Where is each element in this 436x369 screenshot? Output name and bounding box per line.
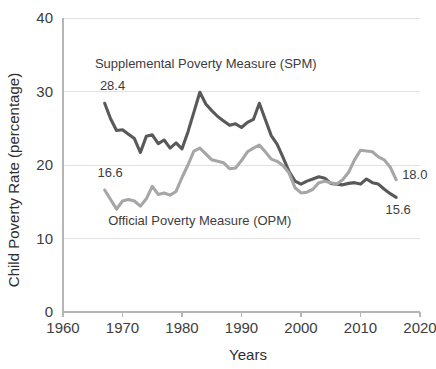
chart-container: 010203040 1960197019801990200020102020 S… — [0, 0, 436, 369]
data-series — [105, 92, 397, 209]
y-axis-title: Child Poverty Rate (percentage) — [5, 73, 22, 287]
series-line-spm — [105, 92, 397, 197]
series-line-opm — [105, 145, 397, 209]
y-tick-label-0: 0 — [45, 303, 53, 320]
x-tick-label-2010: 2010 — [344, 319, 377, 336]
y-axis-tick-labels: 010203040 — [36, 9, 53, 320]
poverty-rate-line-chart: 010203040 1960197019801990200020102020 S… — [0, 0, 436, 369]
opm-series-label: Official Poverty Measure (OPM) — [108, 213, 291, 228]
x-axis-tick-labels: 1960197019801990200020102020 — [46, 319, 436, 336]
spm-start-value: 28.4 — [100, 78, 125, 93]
y-tick-label-40: 40 — [36, 9, 53, 26]
spm-end-value: 15.6 — [385, 202, 410, 217]
x-tick-label-1970: 1970 — [106, 319, 139, 336]
spm-series-label: Supplemental Poverty Measure (SPM) — [95, 56, 317, 71]
x-tick-label-1960: 1960 — [46, 319, 79, 336]
y-tick-label-10: 10 — [36, 230, 53, 247]
x-tick-label-2020: 2020 — [403, 319, 436, 336]
x-tick-label-2000: 2000 — [284, 319, 317, 336]
x-axis-title: Years — [229, 346, 267, 363]
opm-end-value: 18.0 — [402, 167, 427, 182]
x-tick-label-1980: 1980 — [165, 319, 198, 336]
y-tick-label-30: 30 — [36, 83, 53, 100]
y-tick-label-20: 20 — [36, 156, 53, 173]
x-tick-label-1990: 1990 — [225, 319, 258, 336]
opm-start-value: 16.6 — [98, 165, 123, 180]
